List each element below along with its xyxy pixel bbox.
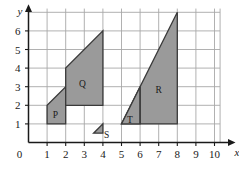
- y-tick-label: 3: [15, 81, 21, 93]
- x-tick-label: 6: [137, 148, 143, 160]
- x-tick-label: 8: [175, 148, 181, 160]
- shape-label-t: T: [127, 115, 133, 125]
- shapes-group: [47, 12, 177, 133]
- coordinate-grid-figure: 012345678910123456 xyPQSRT: [0, 0, 239, 175]
- tick-labels-group: 012345678910123456: [15, 25, 221, 160]
- shape-labels-group: xyPQSRT: [17, 5, 240, 157]
- x-tick-label: 4: [100, 148, 106, 160]
- plot-svg: 012345678910123456 xyPQSRT: [0, 0, 239, 175]
- x-tick-label: 7: [156, 148, 162, 160]
- shape-label-p: P: [53, 110, 58, 120]
- x-tick-label: 5: [119, 148, 125, 160]
- y-tick-label: 6: [15, 25, 21, 37]
- x-tick-label: 2: [63, 148, 69, 160]
- axes-group: [25, 11, 228, 146]
- x-axis-label: x: [233, 146, 239, 158]
- x-tick-label: 10: [209, 148, 221, 160]
- shape-s: [94, 124, 103, 133]
- y-tick-label: 5: [15, 44, 21, 56]
- y-tick-label: 2: [15, 99, 21, 111]
- shape-label-r: R: [156, 85, 163, 95]
- x-tick-label: 3: [82, 148, 88, 160]
- x-tick-label: 0: [17, 148, 23, 160]
- y-tick-label: 4: [15, 62, 21, 74]
- x-tick-label: 1: [44, 148, 50, 160]
- shape-label-s: S: [104, 130, 109, 140]
- y-tick-label: 1: [15, 118, 21, 130]
- y-axis-label: y: [17, 5, 23, 17]
- shape-label-q: Q: [79, 79, 86, 89]
- x-tick-label: 9: [193, 148, 199, 160]
